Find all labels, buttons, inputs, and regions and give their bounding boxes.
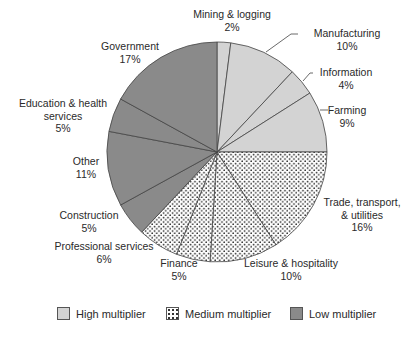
legend-item-low: Low multiplier	[290, 307, 376, 320]
label-construction: Construction 5%	[60, 209, 119, 234]
legend-swatch-medium	[166, 307, 179, 320]
label-value: 16%	[323, 221, 400, 234]
label-farming: Farming 9%	[328, 104, 367, 129]
label-other: Other 11%	[73, 155, 99, 180]
label-name: Construction	[60, 209, 119, 222]
label-professional-services: Professional services 6%	[54, 240, 153, 265]
label-education-health: Education & health services 5%	[19, 97, 107, 135]
legend-item-medium: Medium multiplier	[166, 307, 271, 320]
legend-label-high: High multiplier	[76, 308, 146, 320]
legend-swatch-low	[290, 307, 303, 320]
label-name: Government	[101, 40, 159, 53]
label-value: 2%	[193, 21, 271, 34]
label-name: Manufacturing	[314, 27, 381, 40]
label-finance: Finance 5%	[160, 257, 197, 282]
label-value: 10%	[314, 40, 381, 53]
legend-swatch-high	[57, 307, 70, 320]
label-government: Government 17%	[101, 40, 159, 65]
label-value: 11%	[73, 168, 99, 181]
label-mining-logging: Mining & logging 2%	[193, 8, 271, 33]
label-trade-transport-utilities: Trade, transport, & utilities 16%	[323, 196, 400, 234]
label-value: 10%	[244, 270, 338, 283]
label-value: 5%	[19, 122, 107, 135]
legend-label-low: Low multiplier	[309, 308, 376, 320]
label-name: Other	[73, 155, 99, 168]
label-value: 9%	[328, 117, 367, 130]
label-name: Farming	[328, 104, 367, 117]
label-information: Information 4%	[320, 66, 373, 91]
legend-item-high: High multiplier	[57, 307, 146, 320]
label-leisure-hospitality: Leisure & hospitality 10%	[244, 257, 338, 282]
label-value: 4%	[320, 79, 373, 92]
label-value: 17%	[101, 53, 159, 66]
label-name: Leisure & hospitality	[244, 257, 338, 270]
label-name: Information	[320, 66, 373, 79]
label-value: 5%	[60, 222, 119, 235]
label-name: Trade, transport,	[323, 196, 400, 209]
leader-information	[303, 73, 313, 81]
pie-slices	[107, 42, 327, 262]
leader-manufacturing	[266, 34, 298, 52]
label-name: Mining & logging	[193, 8, 271, 21]
label-value: 5%	[160, 270, 197, 283]
label-name: Finance	[160, 257, 197, 270]
label-name: Professional services	[54, 240, 153, 253]
label-name: Education & health	[19, 97, 107, 110]
label-manufacturing: Manufacturing 10%	[314, 27, 381, 52]
legend: High multiplier Medium multiplier Low mu…	[0, 307, 411, 325]
legend-label-medium: Medium multiplier	[185, 308, 271, 320]
label-value: 6%	[54, 253, 153, 266]
label-name-line2: services	[19, 110, 107, 123]
label-name-line2: & utilities	[323, 209, 400, 222]
